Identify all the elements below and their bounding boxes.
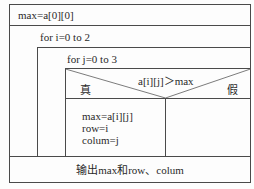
true-stmt-2: row=i	[82, 122, 108, 134]
condition-text: a[i][j]＞max	[138, 75, 194, 87]
true-stmt-3: colum=j	[82, 134, 119, 146]
output-separator	[9, 156, 251, 157]
condition-bottom	[65, 98, 251, 99]
branch-divider	[165, 98, 166, 156]
condition-diagonals	[0, 0, 254, 189]
false-label: 假	[227, 84, 238, 96]
true-label: 真	[80, 84, 91, 96]
true-stmt-1: max=a[i][j]	[82, 110, 133, 122]
output-statement: 输出max和row、colum	[9, 164, 251, 176]
